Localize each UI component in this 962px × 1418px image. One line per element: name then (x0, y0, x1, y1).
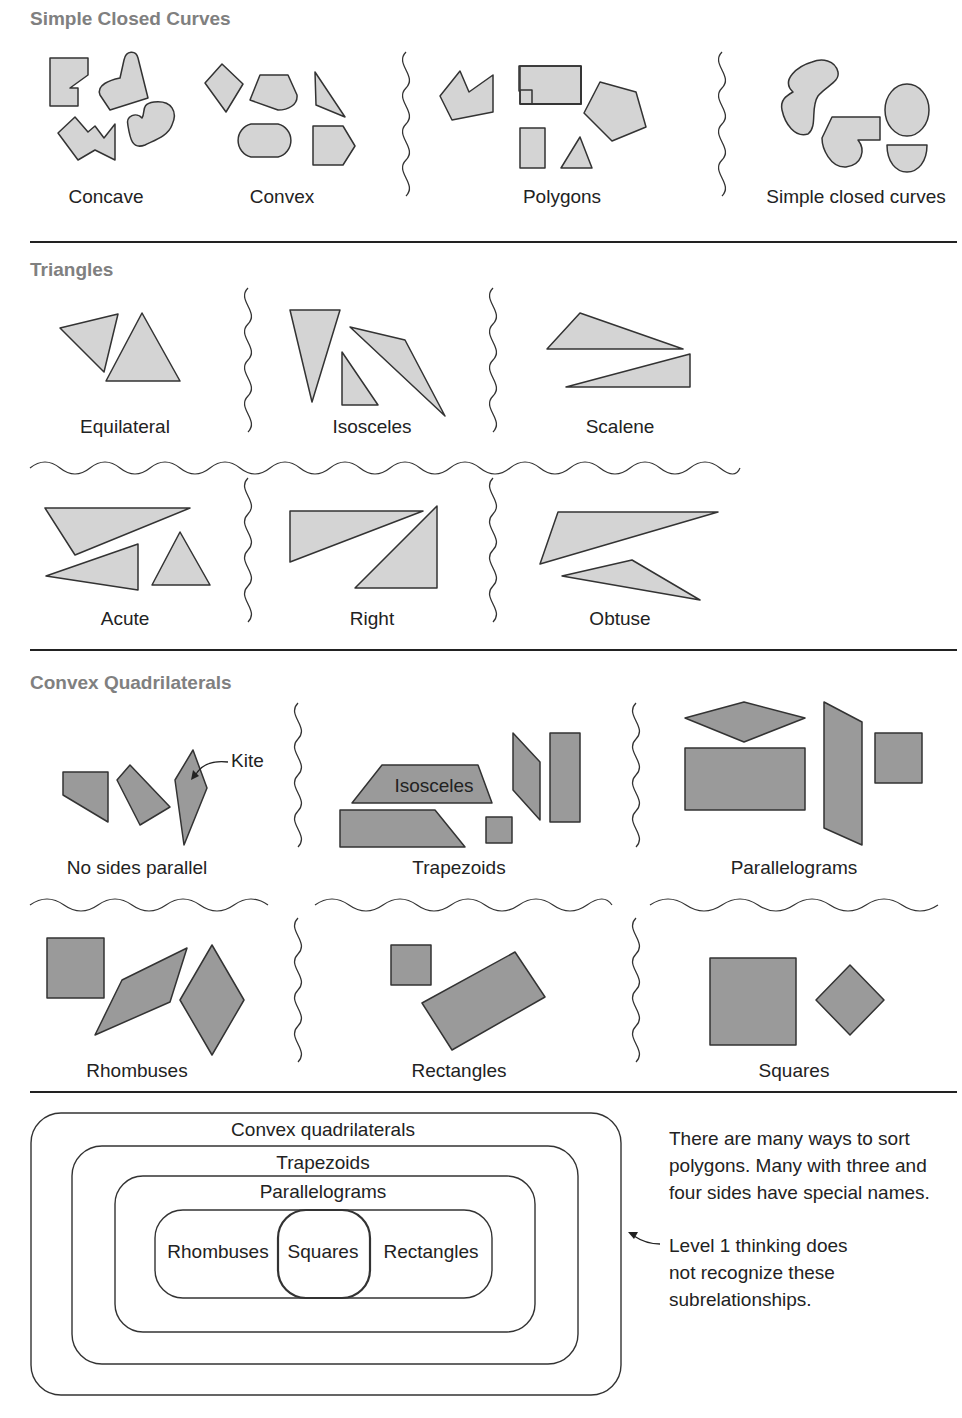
note-line: There are many ways to sort (669, 1125, 930, 1152)
hierarchy-label-convex-quadrilaterals: Convex quadrilaterals (231, 1119, 415, 1141)
note-line: polygons. Many with three and (669, 1152, 930, 1179)
curve-shapes (782, 60, 929, 172)
divider (245, 478, 252, 622)
hierarchy-label-rectangles: Rectangles (383, 1241, 478, 1263)
divider (295, 703, 302, 847)
rectangle-shapes (391, 945, 545, 1050)
divider (30, 462, 740, 474)
label-no-sides-parallel: No sides parallel (67, 857, 207, 879)
divider (315, 899, 612, 911)
label-rhombuses: Rhombuses (86, 1060, 187, 1082)
note-line: four sides have special names. (669, 1179, 930, 1206)
label-concave: Concave (69, 186, 144, 208)
section-title-triangles: Triangles (30, 259, 113, 281)
divider (490, 478, 497, 622)
section-divider (30, 241, 957, 243)
right-shapes (290, 506, 437, 588)
divider (719, 52, 726, 196)
divider (295, 918, 302, 1062)
equilateral-shapes (60, 313, 180, 381)
note-line: not recognize these (669, 1259, 848, 1286)
divider (30, 899, 268, 911)
section-title-convex-quadrilaterals: Convex Quadrilaterals (30, 672, 232, 694)
label-scalene: Scalene (586, 416, 655, 438)
rhombus-shapes (47, 938, 244, 1055)
note-line: Level 1 thinking does (669, 1232, 848, 1259)
label-kite: Kite (231, 750, 264, 772)
section-divider (30, 1091, 957, 1093)
divider (633, 918, 640, 1062)
label-obtuse: Obtuse (589, 608, 650, 630)
polygon-shapes (440, 66, 646, 168)
hierarchy-label-squares: Squares (288, 1241, 359, 1263)
divider (245, 288, 252, 432)
section-divider (30, 649, 957, 651)
isosceles-shapes (290, 310, 445, 416)
concave-shapes (50, 52, 174, 160)
hierarchy-label-rhombuses: Rhombuses (167, 1241, 268, 1263)
label-polygons: Polygons (523, 186, 601, 208)
hierarchy-label-trapezoids: Trapezoids (276, 1152, 369, 1174)
hierarchy-label-parallelograms: Parallelograms (260, 1181, 387, 1203)
note-arrow-icon (634, 1236, 660, 1244)
divider (633, 703, 640, 847)
label-convex: Convex (250, 186, 314, 208)
label-simple-closed-curves: Simple closed curves (766, 186, 946, 208)
label-isosceles-trapezoid: Isosceles (394, 775, 473, 797)
note-level1: Level 1 thinking does not recognize thes… (669, 1232, 848, 1313)
label-trapezoids: Trapezoids (412, 857, 505, 879)
acute-shapes (45, 508, 210, 590)
label-rectangles: Rectangles (411, 1060, 506, 1082)
divider (490, 288, 497, 432)
label-right: Right (350, 608, 394, 630)
convex-shapes (205, 64, 355, 165)
label-squares: Squares (759, 1060, 830, 1082)
no-sides-parallel-shapes (63, 750, 207, 845)
square-shapes (710, 958, 884, 1045)
note-sorting: There are many ways to sort polygons. Ma… (669, 1125, 930, 1206)
divider (650, 899, 938, 911)
obtuse-shapes (540, 512, 718, 600)
label-equilateral: Equilateral (80, 416, 170, 438)
scalene-shapes (547, 313, 690, 387)
parallelogram-shapes (685, 702, 922, 845)
label-isosceles: Isosceles (332, 416, 411, 438)
label-parallelograms: Parallelograms (731, 857, 858, 879)
divider (403, 52, 410, 196)
section-title-simple-closed-curves: Simple Closed Curves (30, 8, 231, 30)
label-acute: Acute (101, 608, 150, 630)
note-line: subrelationships. (669, 1286, 848, 1313)
